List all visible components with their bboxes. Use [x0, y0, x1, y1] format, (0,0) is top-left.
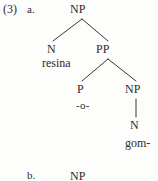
tree-terminal-o-infix: -o-: [76, 100, 90, 111]
example-number: (3): [3, 3, 17, 15]
syntax-tree-figure: (3) a. NP N PP resina P NP -o- N gom- b.…: [0, 0, 158, 181]
tree-node-p: P: [77, 83, 84, 95]
branch-pp-to-p: [82, 59, 108, 81]
tree-node-np-root-b: NP: [70, 170, 85, 181]
example-item-label-a: a.: [27, 4, 35, 15]
branch-root-to-pp: [82, 19, 108, 41]
example-item-label-b: b.: [27, 170, 35, 181]
branch-pp-to-np: [108, 59, 136, 81]
tree-terminal-gom: gom-: [125, 137, 150, 149]
tree-node-n-left: N: [47, 43, 56, 55]
tree-terminal-resina: resina: [42, 57, 71, 69]
tree-node-n-embedded: N: [130, 119, 139, 131]
tree-node-np-root: NP: [70, 3, 85, 15]
tree-node-np-embedded: NP: [125, 83, 140, 95]
tree-node-pp: PP: [96, 43, 109, 55]
branch-root-to-n: [53, 19, 82, 41]
